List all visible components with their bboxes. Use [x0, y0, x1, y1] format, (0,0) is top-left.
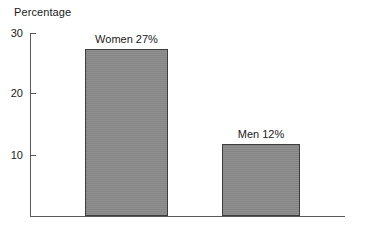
y-axis-line [30, 33, 31, 217]
bar-label-women: Women 27% [85, 33, 168, 45]
y-tick-label-20: 20 [11, 88, 23, 99]
y-tick-mark-20 [31, 93, 36, 94]
y-axis-title: Percentage [14, 6, 71, 19]
y-tick-mark-10 [31, 155, 36, 156]
bar-women [85, 49, 168, 216]
y-tick-label-10: 10 [11, 150, 23, 161]
x-axis-line [30, 216, 345, 217]
y-tick-label-30: 30 [11, 28, 23, 39]
bar-label-men: Men 12% [222, 128, 300, 140]
bar-men [222, 144, 300, 216]
bar-chart: Percentage 30 20 10 Women 27% Men 12% [0, 0, 365, 232]
y-tick-mark-30 [31, 33, 36, 34]
